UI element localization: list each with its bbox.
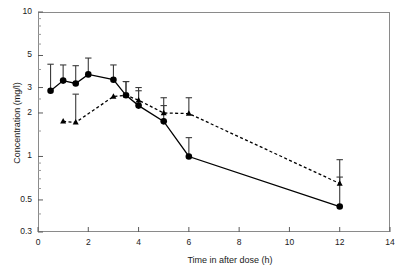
series-line [51, 74, 340, 206]
x-tick-label: 6 [179, 238, 199, 247]
x-tick-label: 2 [78, 238, 98, 247]
error-bar [337, 160, 343, 184]
data-point-triangle [337, 180, 343, 186]
series-circle-series [47, 58, 343, 210]
data-point-circle [110, 76, 117, 83]
x-axis-title: Time in after dose (h) [140, 255, 320, 265]
data-point-circle [47, 87, 54, 94]
series-line [63, 95, 340, 183]
y-tick-label: 0.3 [6, 227, 32, 236]
series-triangle-series [60, 82, 343, 186]
data-point-circle [160, 118, 167, 125]
figure-container: 0.30.5123510 02468101214 Time in after d… [0, 0, 403, 275]
y-tick-label: 0.5 [6, 195, 32, 204]
x-tick-label: 0 [28, 238, 48, 247]
data-point-circle [186, 153, 193, 160]
data-point-triangle [73, 119, 79, 125]
x-tick-label: 12 [330, 238, 350, 247]
data-point-circle [72, 80, 79, 87]
data-point-circle [336, 203, 343, 210]
x-tick-label: 8 [229, 238, 249, 247]
x-tick-label: 10 [279, 238, 299, 247]
error-bar [73, 94, 79, 122]
y-axis-title: Concentration (mg/l) [12, 53, 22, 193]
data-point-triangle [60, 118, 66, 124]
x-tick-label: 4 [129, 238, 149, 247]
data-point-circle [135, 102, 142, 109]
chart-overlay [0, 0, 403, 275]
data-point-circle [85, 71, 92, 78]
y-tick-label: 10 [6, 7, 32, 16]
data-point-circle [60, 77, 67, 84]
x-tick-label: 14 [380, 238, 400, 247]
axis-ticks [38, 12, 390, 232]
error-bar [47, 64, 53, 91]
data-series-group [47, 58, 343, 210]
